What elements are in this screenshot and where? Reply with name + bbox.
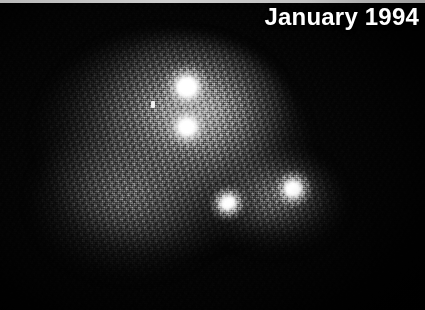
nucleus-glow (205, 180, 252, 225)
nucleus-right-bright (272, 168, 314, 210)
date-caption: January 1994 (264, 3, 419, 30)
nucleus-glow (274, 171, 312, 207)
image-grain-fine (0, 0, 425, 310)
field-star-speck (151, 101, 155, 108)
coma-upper-lobe (96, 38, 286, 188)
nucleus-core (177, 77, 198, 97)
nucleus-lower-bright (165, 105, 209, 149)
coma-main-halo (28, 34, 308, 284)
astronomical-photograph: January 1994 (0, 0, 425, 310)
coma-lower-left-lobe (36, 120, 246, 285)
nucleus-upper-bright (163, 63, 211, 111)
image-grain-coarse (0, 0, 425, 310)
nucleus-core (219, 195, 237, 212)
nucleus-core (285, 182, 301, 196)
nucleus-elongated-left (208, 184, 248, 222)
nucleus-glow (164, 64, 210, 110)
edge-vignette (0, 0, 425, 310)
nucleus-glow (166, 106, 208, 148)
coma-lower-right-lobe (186, 150, 341, 260)
image-grain-medium (0, 0, 425, 310)
nucleus-core (178, 119, 196, 135)
